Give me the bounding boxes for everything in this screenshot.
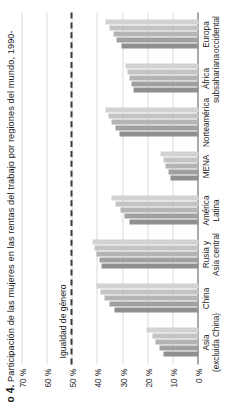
bar <box>121 44 198 49</box>
bar <box>165 164 198 169</box>
bar <box>111 120 198 125</box>
bar-group <box>22 196 198 225</box>
bar-group <box>22 20 198 49</box>
category-label: Europa occidental <box>201 16 220 53</box>
category-label: China <box>201 287 211 308</box>
bar <box>100 290 198 295</box>
bar <box>96 284 198 289</box>
bar <box>129 76 198 81</box>
bar <box>133 88 198 93</box>
bar <box>104 296 198 301</box>
y-axis-tick-label: 0 % <box>193 368 203 402</box>
chart-figure: o 4. Participación de las mujeres en las… <box>0 0 245 404</box>
bar <box>105 108 198 113</box>
bar <box>120 208 198 213</box>
figure-number: o 4. <box>4 384 15 402</box>
bar <box>160 152 198 157</box>
y-axis-tick-label: 50 % <box>67 368 77 402</box>
bar <box>155 340 198 345</box>
bar <box>129 220 198 225</box>
bar <box>111 196 198 201</box>
bar <box>131 82 198 87</box>
bar <box>101 264 198 269</box>
y-axis-tick-label: 30 % <box>118 368 128 402</box>
plot-area: 0 %10 %20 %30 %40 %50 %60 %70 %Asia (exc… <box>22 12 198 364</box>
bar-group <box>22 108 198 137</box>
bar <box>125 64 198 69</box>
bar <box>96 252 198 257</box>
category-label: América Latina <box>201 195 220 225</box>
bar <box>108 114 198 119</box>
bar <box>115 202 198 207</box>
bar <box>163 352 198 357</box>
bar-group <box>22 328 198 357</box>
category-label: África subsahariana <box>201 53 220 102</box>
y-axis-tick-label: 60 % <box>42 368 52 402</box>
bar <box>152 334 199 339</box>
bar-group <box>22 64 198 93</box>
bar <box>113 32 198 37</box>
bar <box>114 308 198 313</box>
y-axis-tick-label: 20 % <box>143 368 153 402</box>
bar <box>159 346 198 351</box>
bar <box>124 214 198 219</box>
figure-frame: o 4. Participación de las mujeres en las… <box>0 0 245 404</box>
bar <box>109 26 198 31</box>
bar <box>170 176 198 181</box>
bar <box>105 20 198 25</box>
bar <box>146 328 198 333</box>
bar <box>92 240 198 245</box>
category-label: Norteamérica <box>201 97 211 146</box>
y-axis-tick-label: 10 % <box>168 368 178 402</box>
bar <box>109 302 198 307</box>
y-axis-tick-label: 40 % <box>92 368 102 402</box>
bar <box>168 170 198 175</box>
bar <box>116 38 198 43</box>
figure-title-text: Participación de las mujeres en las rent… <box>5 30 15 382</box>
bar <box>94 246 198 251</box>
category-label: MENA <box>201 154 211 178</box>
bar <box>163 158 198 163</box>
y-axis-tick-label: 70 % <box>17 368 27 402</box>
gender-parity-line <box>70 12 72 364</box>
bar-group <box>22 152 198 181</box>
bar-group <box>22 284 198 313</box>
figure-title: o 4. Participación de las mujeres en las… <box>4 2 15 402</box>
category-label: Asia (excluida China) <box>201 312 220 371</box>
rotated-page-content: o 4. Participación de las mujeres en las… <box>0 0 245 404</box>
category-label: Rusia y Asia central <box>201 233 220 276</box>
bar <box>127 70 198 75</box>
gender-parity-label: Igualdad de género <box>57 284 67 358</box>
bar <box>99 258 198 263</box>
bar <box>119 132 198 137</box>
bar-group <box>22 240 198 269</box>
bar <box>115 126 198 131</box>
